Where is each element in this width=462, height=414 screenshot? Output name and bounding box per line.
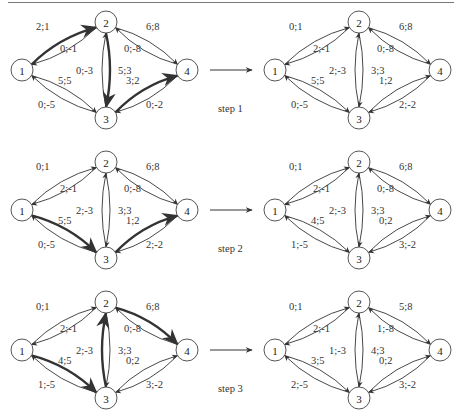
- edge-label-2-4: 6;8: [146, 301, 159, 312]
- svg-text:4: 4: [184, 205, 190, 217]
- edge-label-2-1: 0;-1: [60, 43, 77, 54]
- edge-label-1-3: 5;5: [58, 75, 71, 86]
- edge-label-1-2: 0;1: [289, 21, 302, 32]
- edge-3-to-2: [102, 33, 106, 107]
- edge-label-4-3: 2;-2: [399, 99, 416, 110]
- node-3: 3: [95, 247, 117, 269]
- edge-label-1-2: 0;1: [289, 301, 302, 312]
- edge-label-2-1: 2;-1: [313, 323, 330, 334]
- edge-label-2-4: 6;8: [146, 161, 159, 172]
- svg-text:2: 2: [356, 17, 362, 29]
- edge-label-4-2: 0;-8: [377, 43, 394, 54]
- edge-label-2-4: 6;8: [399, 21, 412, 32]
- edge-label-3-2: 0;-3: [76, 65, 93, 76]
- edge-2-to-3: [359, 313, 363, 387]
- edge-label-3-1: 0;-5: [38, 99, 55, 110]
- graph-step1-after: 0;12;-15;50;-53;32;-36;80;-81;22;-21234: [264, 11, 451, 129]
- step-label: step 2: [218, 243, 243, 254]
- edge-label-4-3: 3;-2: [399, 239, 416, 250]
- node-1: 1: [264, 199, 286, 221]
- edge-label-4-3: 3;-2: [146, 379, 163, 390]
- edge-label-3-2: 2;-3: [76, 205, 93, 216]
- edge-3-to-2: [355, 33, 359, 107]
- svg-text:1: 1: [272, 65, 278, 77]
- edge-label-4-3: 3;-2: [399, 379, 416, 390]
- node-4: 4: [176, 199, 198, 221]
- edge-label-2-1: 2;-1: [60, 183, 77, 194]
- edge-3-to-2: [355, 173, 359, 247]
- edge-label-4-2: 0;-8: [124, 323, 141, 334]
- node-1: 1: [11, 199, 33, 221]
- svg-text:3: 3: [356, 393, 362, 405]
- edge-label-4-2: 0;-8: [124, 43, 141, 54]
- edge-label-3-4: 1;2: [379, 75, 392, 86]
- edge-2-to-3: [359, 173, 363, 247]
- edge-label-3-4: 1;2: [126, 215, 139, 226]
- node-2: 2: [348, 11, 370, 33]
- edge-label-3-4: 0;2: [379, 215, 392, 226]
- edge-label-1-2: 0;1: [36, 301, 49, 312]
- graph-step2-after: 0;12;-14;51;-53;32;-36;80;-80;23;-21234: [264, 151, 451, 269]
- svg-text:3: 3: [103, 393, 109, 405]
- edge-label-2-1: 2;-1: [313, 183, 330, 194]
- svg-text:4: 4: [437, 65, 443, 77]
- edge-label-3-4: 0;2: [379, 355, 392, 366]
- graph-step3-before: 0;12;-14;51;-53;32;-36;80;-80;23;-21234: [11, 291, 198, 409]
- node-3: 3: [348, 247, 370, 269]
- svg-text:2: 2: [103, 297, 109, 309]
- edge-label-4-2: 0;-8: [377, 183, 394, 194]
- node-3: 3: [95, 107, 117, 129]
- edge-2-to-3: [359, 33, 363, 107]
- node-3: 3: [95, 387, 117, 409]
- edge-label-1-3: 5;5: [58, 215, 71, 226]
- graph-step2-before: 0;12;-15;50;-53;32;-36;80;-81;22;-21234: [11, 151, 198, 269]
- edge-label-3-1: 2;-5: [291, 379, 308, 390]
- svg-text:2: 2: [356, 297, 362, 309]
- node-1: 1: [11, 59, 33, 81]
- svg-text:1: 1: [19, 65, 25, 77]
- svg-text:3: 3: [103, 253, 109, 265]
- step-label: step 3: [218, 383, 243, 394]
- node-2: 2: [348, 291, 370, 313]
- edge-label-3-2: 2;-3: [76, 345, 93, 356]
- edge-3-to-2: [355, 313, 359, 387]
- edge-label-1-3: 3;5: [311, 355, 324, 366]
- svg-text:1: 1: [19, 345, 25, 357]
- svg-text:2: 2: [356, 157, 362, 169]
- graph-step1-before: 2;10;-15;50;-55;30;-36;80;-83;20;-21234: [11, 11, 198, 129]
- flow-diagram: 2;10;-15;50;-55;30;-36;80;-83;20;-212340…: [0, 0, 462, 414]
- edge-3-to-2: [102, 173, 106, 247]
- edge-label-1-3: 5;5: [311, 75, 324, 86]
- edge-label-3-1: 0;-5: [38, 239, 55, 250]
- node-2: 2: [95, 11, 117, 33]
- edge-label-1-2: 0;1: [36, 161, 49, 172]
- svg-text:4: 4: [184, 345, 190, 357]
- svg-text:3: 3: [356, 113, 362, 125]
- node-4: 4: [176, 339, 198, 361]
- edge-label-3-1: 0;-5: [291, 99, 308, 110]
- node-4: 4: [176, 59, 198, 81]
- edge-2-to-3: [106, 313, 110, 387]
- node-4: 4: [429, 199, 451, 221]
- edge-label-2-4: 6;8: [399, 161, 412, 172]
- edge-label-3-2: 1;-3: [329, 345, 346, 356]
- node-3: 3: [348, 107, 370, 129]
- node-1: 1: [11, 339, 33, 361]
- node-4: 4: [429, 59, 451, 81]
- node-1: 1: [264, 59, 286, 81]
- edge-label-2-1: 2;-1: [60, 323, 77, 334]
- svg-text:2: 2: [103, 17, 109, 29]
- edge-3-to-2: [102, 313, 106, 387]
- svg-text:1: 1: [272, 345, 278, 357]
- edge-label-4-2: 1;-8: [377, 323, 394, 334]
- edge-label-1-2: 0;1: [289, 161, 302, 172]
- svg-text:2: 2: [103, 157, 109, 169]
- svg-text:3: 3: [356, 253, 362, 265]
- svg-text:4: 4: [437, 205, 443, 217]
- svg-text:1: 1: [19, 205, 25, 217]
- edge-label-3-2: 2;-3: [329, 205, 346, 216]
- edge-2-to-3: [106, 173, 110, 247]
- edge-label-4-2: 0;-8: [124, 183, 141, 194]
- edge-label-2-4: 6;8: [146, 21, 159, 32]
- svg-text:4: 4: [184, 65, 190, 77]
